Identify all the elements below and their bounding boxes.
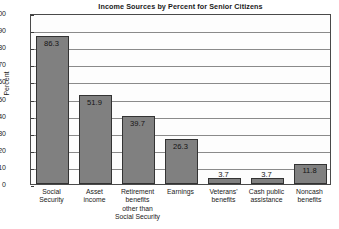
x-category-label: Noncashbenefits [284,188,335,205]
gridline [31,49,330,50]
y-tick-label: 30 [0,130,6,137]
chart-title: Income Sources by Percent for Senior Cit… [30,2,331,11]
y-tick-mark [31,152,34,153]
y-tick-mark [31,83,34,84]
y-tick-label: 20 [0,147,6,154]
y-tick-mark [31,49,34,50]
y-tick-label: 10 [0,164,6,171]
x-category-label-line: Noncash [284,188,335,196]
y-tick-label: 70 [0,61,6,68]
bar-value-label: 3.7 [201,170,246,179]
y-tick-mark [31,66,34,67]
y-tick-mark [31,15,34,16]
y-tick-label: 60 [0,78,6,85]
y-tick-label: 0 [0,181,6,188]
y-tick-mark [31,169,34,170]
y-tick-label: 50 [0,96,6,103]
bar-value-label: 86.3 [29,39,74,48]
gridline [31,32,330,33]
y-tick-label: 100 [0,10,6,17]
x-category-label-line: other than [112,205,163,213]
x-category-label-line: benefits [284,196,335,204]
y-tick-mark [31,135,34,136]
y-tick-mark [31,101,34,102]
gridline [31,135,330,136]
bar-value-label: 11.8 [287,166,332,175]
y-tick-label: 80 [0,44,6,51]
y-tick-label: 40 [0,113,6,120]
bar-value-label: 26.3 [158,142,203,151]
y-tick-label: 90 [0,27,6,34]
x-category-label-line: benefits [112,196,163,204]
bar-value-label: 51.9 [72,98,117,107]
y-tick-mark [31,118,34,119]
bar [79,95,112,184]
bar-value-label: 3.7 [244,170,289,179]
bar-value-label: 39.7 [115,119,160,128]
bar [36,36,69,184]
y-tick-mark [31,186,34,187]
gridline [31,118,330,119]
gridline [31,66,330,67]
y-tick-mark [31,32,34,33]
x-category-label-line: Social Security [112,213,163,221]
gridline [31,83,330,84]
bar-chart-figure: Income Sources by Percent for Senior Cit… [0,0,339,229]
